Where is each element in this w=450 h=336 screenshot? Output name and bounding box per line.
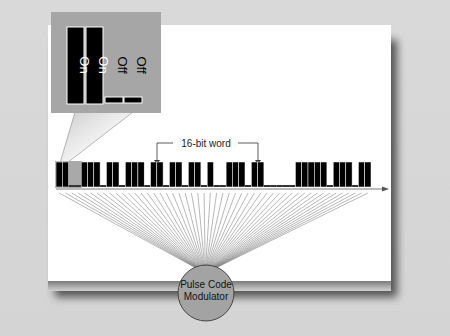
- fan-line: [210, 193, 274, 268]
- bit-off: [352, 185, 358, 187]
- bit-on: [157, 162, 163, 187]
- modulator-label-line2: Modulator: [184, 291, 229, 302]
- inset-off-label-2: Off: [134, 56, 149, 73]
- bit-off: [264, 185, 270, 187]
- fan-line: [97, 193, 198, 268]
- bit-on: [176, 162, 182, 187]
- fan-line: [141, 193, 201, 268]
- bit-on: [365, 162, 371, 187]
- bit-off: [201, 185, 207, 187]
- pcm-diagram: On On Off Off 16-bit word Pulse Code Mod…: [0, 0, 450, 336]
- bit-on: [151, 162, 157, 187]
- inset-zoom: On On Off Off: [51, 12, 161, 113]
- bit-on: [62, 162, 68, 187]
- bit-off: [119, 185, 125, 187]
- fan-line: [211, 193, 292, 268]
- inset-bit-off-2: [124, 97, 142, 103]
- bit-off: [100, 185, 106, 187]
- fan-line: [212, 193, 311, 268]
- inset-bit-off-1: [105, 97, 123, 103]
- bit-off: [283, 185, 289, 187]
- bit-on: [258, 162, 264, 187]
- bit-on: [232, 162, 238, 187]
- magnify-beam: [60, 112, 133, 163]
- bit-on: [308, 162, 314, 187]
- bit-on: [358, 162, 364, 187]
- bit-on: [169, 162, 175, 187]
- bit-off: [182, 185, 188, 187]
- fan-line: [128, 193, 200, 268]
- bit-off: [270, 185, 276, 187]
- axis-arrow-icon: [382, 187, 389, 192]
- fan-lines: [59, 193, 368, 268]
- bit-off: [214, 185, 220, 187]
- bit-on: [321, 162, 327, 187]
- bit-off: [277, 185, 283, 187]
- bit-off: [327, 185, 333, 187]
- bit-on: [340, 162, 346, 187]
- fan-line: [59, 193, 196, 268]
- inset-off-label-1: Off: [115, 56, 130, 73]
- fan-line: [65, 193, 196, 268]
- bit-on: [94, 162, 100, 187]
- fan-line: [215, 193, 361, 268]
- fan-line: [110, 193, 200, 268]
- fan-line: [213, 193, 324, 268]
- fan-line: [215, 193, 355, 268]
- bit-on: [295, 162, 301, 187]
- bit-off: [144, 185, 150, 187]
- diagram-stage: On On Off Off 16-bit word Pulse Code Mod…: [0, 0, 450, 336]
- bit-on: [333, 162, 339, 187]
- bit-on: [81, 162, 87, 187]
- bit-on: [314, 162, 320, 187]
- bit-on: [125, 162, 131, 187]
- inset-on-label-2: On: [96, 56, 111, 73]
- bit-on: [207, 162, 213, 187]
- fan-line: [206, 193, 211, 268]
- inset-on-label-1: On: [77, 56, 92, 73]
- bit-on: [188, 162, 194, 187]
- modulator-label-line1: Pulse Code: [180, 279, 232, 290]
- word-bracket: 16-bit word: [154, 138, 261, 165]
- bit-off: [69, 185, 75, 187]
- bit-on: [251, 162, 257, 187]
- fan-line: [204, 193, 205, 268]
- bit-on: [226, 162, 232, 187]
- bit-off: [220, 185, 226, 187]
- bit-on: [302, 162, 308, 187]
- fan-line: [116, 193, 200, 268]
- fan-line: [78, 193, 197, 268]
- bit-on: [239, 162, 245, 187]
- word-label: 16-bit word: [181, 138, 230, 149]
- fan-line: [214, 193, 337, 268]
- pulse-code-modulator: Pulse Code Modulator: [178, 265, 234, 321]
- fan-line: [214, 193, 343, 268]
- bit-off: [245, 185, 251, 187]
- bit-on: [346, 162, 352, 187]
- fan-line: [213, 193, 330, 268]
- bit-on: [106, 162, 112, 187]
- bit-off: [289, 185, 295, 187]
- bit-on: [113, 162, 119, 187]
- bit-off: [163, 185, 169, 187]
- bit-on: [138, 162, 144, 187]
- bit-on: [88, 162, 94, 187]
- bit-on: [132, 162, 138, 187]
- bit-off: [75, 185, 81, 187]
- bit-on: [195, 162, 201, 187]
- fan-line: [160, 193, 202, 268]
- fan-line: [84, 193, 197, 268]
- bit-on: [56, 162, 62, 187]
- bit-stream: [55, 161, 371, 188]
